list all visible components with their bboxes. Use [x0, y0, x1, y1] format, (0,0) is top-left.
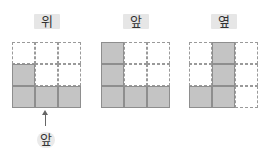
arrow-shaft [45, 112, 46, 126]
filled-cell [58, 86, 81, 108]
grid-side-view [189, 42, 258, 108]
front-direction-label: 앞 [37, 132, 55, 148]
empty-cell [124, 42, 147, 64]
empty-cell [235, 86, 258, 108]
view-label-top: 위 [34, 14, 60, 29]
view-label-side: 옆 [211, 14, 237, 29]
empty-cell [235, 42, 258, 64]
filled-cell [12, 86, 35, 108]
empty-cell [12, 42, 35, 64]
empty-cell [189, 42, 212, 64]
filled-cell [12, 64, 35, 86]
filled-cell [101, 42, 124, 64]
filled-cell [101, 86, 124, 108]
filled-cell [189, 86, 212, 108]
empty-cell [35, 42, 58, 64]
filled-cell [212, 86, 235, 108]
filled-cell [212, 42, 235, 64]
empty-cell [189, 64, 212, 86]
view-label-front: 앞 [123, 14, 149, 29]
empty-cell [147, 42, 170, 64]
filled-cell [147, 86, 170, 108]
filled-cell [124, 86, 147, 108]
empty-cell [124, 64, 147, 86]
empty-cell [35, 64, 58, 86]
filled-cell [101, 64, 124, 86]
grid-front-view [101, 42, 170, 108]
grid-top-view [12, 42, 81, 108]
empty-cell [58, 64, 81, 86]
empty-cell [58, 42, 81, 64]
empty-cell [235, 64, 258, 86]
filled-cell [212, 64, 235, 86]
empty-cell [147, 64, 170, 86]
filled-cell [35, 86, 58, 108]
